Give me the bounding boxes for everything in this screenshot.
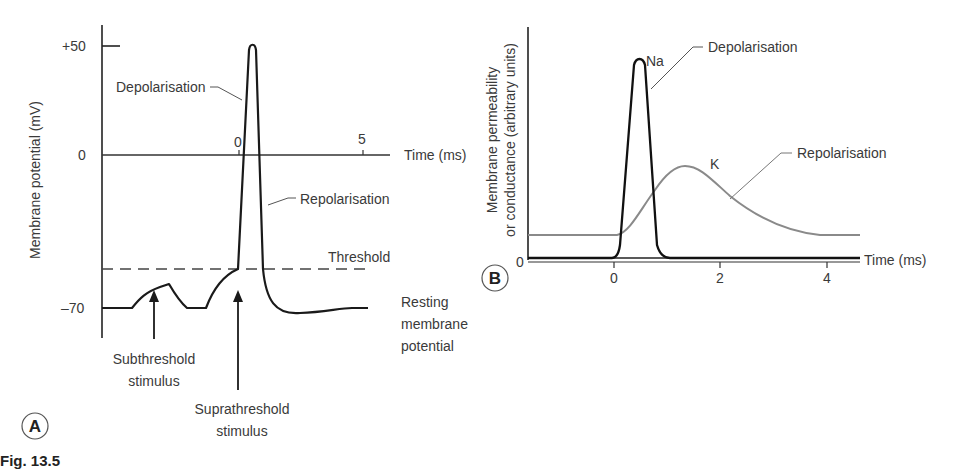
figure-canvas: +50 0 –70 Membrane potential (mV) 0 5 Ti… [0,0,956,471]
a-suprathreshold-label-1: Suprathreshold [195,401,290,417]
b-repolarisation-label: Repolarisation [797,145,887,161]
a-xtick-label-0: 0 [234,134,242,150]
b-xtick-label-4: 4 [823,270,831,286]
panel-a: +50 0 –70 Membrane potential (mV) 0 5 Ti… [22,25,468,439]
a-repolarisation-label: Repolarisation [300,191,390,207]
b-xtick-label-0: 0 [610,270,618,286]
b-repolarisation-leader [730,153,792,199]
b-y-axis-title-2: or conductance (arbitrary units) [502,43,518,237]
a-suprathreshold-arrowhead [233,290,243,302]
a-resting-label-2: membrane [401,316,468,332]
b-na-label: Na [646,53,664,69]
a-suprathreshold-label-2: stimulus [216,423,267,439]
a-tick-label-0: 0 [78,147,86,163]
a-threshold-label: Threshold [328,249,390,265]
a-xtick-label-5: 5 [358,131,366,147]
a-depolarisation-label: Depolarisation [116,79,206,95]
a-depolarisation-leader [210,87,242,100]
a-x-axis-title: Time (ms) [404,147,466,163]
a-tick-label-m70: –70 [61,300,85,316]
figure-caption: Fig. 13.5 [0,452,60,469]
a-subthreshold-label-2: stimulus [128,373,179,389]
panel-b: Membrane permeability or conductance (ar… [482,27,926,291]
b-y-axis-title-1: Membrane permeability [484,67,500,213]
a-resting-label-1: Resting [401,294,448,310]
b-panel-letter: B [489,269,501,288]
a-panel-letter: A [29,417,41,436]
a-y-axis-title: Membrane potential (mV) [27,101,43,259]
b-k-curve [528,166,860,235]
b-x-axis-title: Time (ms) [864,252,926,268]
a-repolarisation-leader [268,198,296,205]
b-depolarisation-label: Depolarisation [708,39,798,55]
a-tick-label-p50: +50 [62,38,86,54]
a-subthreshold-label-1: Subthreshold [113,351,196,367]
b-ytick-label-0: 0 [516,254,524,270]
b-k-label: K [710,156,720,172]
b-xtick-label-2: 2 [716,270,724,286]
a-resting-label-3: potential [401,338,454,354]
